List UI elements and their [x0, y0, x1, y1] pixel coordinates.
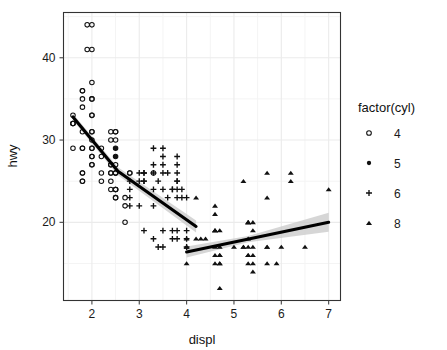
legend-title: factor(cyl) — [358, 100, 415, 115]
x-tick-label: 4 — [183, 307, 190, 321]
x-tick-label: 5 — [231, 307, 238, 321]
y-tick-label: 40 — [42, 51, 56, 65]
x-tick-label: 6 — [278, 307, 285, 321]
x-tick-label: 7 — [325, 307, 332, 321]
y-tick-label: 30 — [42, 133, 56, 147]
scatter-plot: 234567 203040 displ hwy factor(cyl) 4568 — [0, 0, 447, 350]
y-axis-title: hwy — [5, 144, 20, 168]
chart-container: 234567 203040 displ hwy factor(cyl) 4568 — [0, 0, 447, 350]
y-tick-label: 20 — [42, 215, 56, 229]
figure-background — [0, 0, 447, 350]
x-axis-title: displ — [189, 332, 216, 347]
legend-label: 6 — [394, 187, 401, 201]
legend-label: 4 — [394, 127, 401, 141]
legend-label: 8 — [394, 217, 401, 231]
x-tick-label: 3 — [136, 307, 143, 321]
legend-label: 5 — [394, 157, 401, 171]
x-tick-label: 2 — [89, 307, 96, 321]
legend-marker-filled-circle — [367, 161, 371, 165]
point-marker — [113, 146, 117, 150]
point-marker — [113, 154, 117, 158]
